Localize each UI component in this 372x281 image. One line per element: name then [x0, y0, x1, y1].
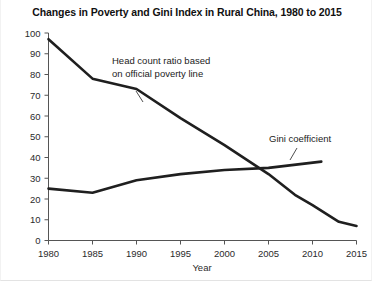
- x-axis-tick-labels: 19801985199019952000200520102015: [38, 248, 367, 259]
- poverty-label-line-2: on official poverty line: [112, 68, 203, 79]
- x-tick-label: 1980: [38, 248, 59, 259]
- y-axis-ticks: [45, 33, 49, 241]
- y-tick-label: 40: [30, 152, 41, 163]
- y-tick-label: 0: [35, 235, 40, 246]
- y-tick-label: 30: [30, 173, 41, 184]
- x-tick-label: 1990: [126, 248, 147, 259]
- gini-label-line-1: Gini coefficient: [269, 133, 331, 144]
- y-tick-label: 70: [30, 90, 41, 101]
- chart-figure: Changes in Poverty and Gini Index in Rur…: [0, 0, 372, 281]
- y-tick-label: 10: [30, 214, 41, 225]
- chart-plot-area: 0102030405060708090100 19801985199019952…: [1, 0, 372, 281]
- gini-label-leader-line: [290, 148, 297, 160]
- y-tick-label: 90: [30, 48, 41, 59]
- y-tick-label: 80: [30, 69, 41, 80]
- x-axis-ticks: [49, 241, 357, 245]
- y-axis-tick-labels: 0102030405060708090100: [25, 28, 41, 247]
- x-tick-label: 1985: [82, 248, 103, 259]
- y-tick-label: 100: [25, 28, 41, 39]
- x-tick-label: 2000: [214, 248, 235, 259]
- x-tick-label: 2015: [346, 248, 367, 259]
- x-axis-label: Year: [192, 262, 211, 273]
- poverty-label-line-1: Head count ratio based: [112, 55, 210, 66]
- x-tick-label: 2005: [258, 248, 279, 259]
- x-tick-label: 2010: [302, 248, 323, 259]
- y-tick-label: 50: [30, 131, 41, 142]
- x-tick-label: 1995: [170, 248, 191, 259]
- y-tick-label: 60: [30, 111, 41, 122]
- y-tick-label: 20: [30, 194, 41, 205]
- series-line-gini-coefficient: [49, 162, 322, 193]
